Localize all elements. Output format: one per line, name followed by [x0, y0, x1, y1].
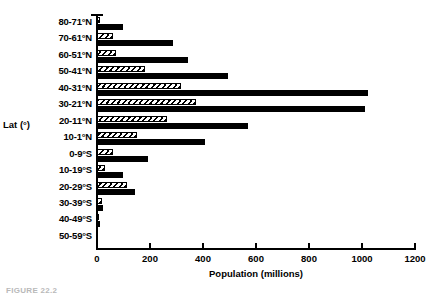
bar-group: [97, 164, 415, 181]
bar-solid: [97, 205, 103, 211]
bar-hatched: [97, 214, 99, 220]
bar-solid: [97, 24, 123, 30]
y-axis-tick-label: 50-59°S: [0, 231, 92, 241]
bar-group: [97, 148, 415, 165]
bar-hatched: [97, 83, 181, 89]
x-axis-tick-label: 0: [67, 253, 127, 264]
bar-hatched: [97, 33, 113, 39]
y-axis-tick-label: 40-49°S: [0, 214, 92, 224]
y-axis-tick-label: 10-19°S: [0, 165, 92, 175]
figure-container: Lat (°) Population (millions) FIGURE 22.…: [0, 0, 436, 297]
bar-group: [97, 131, 415, 148]
x-axis-tick-label: 400: [173, 253, 233, 264]
figure-caption: FIGURE 22.2: [6, 286, 57, 295]
y-axis-tick-label: 30-21°N: [0, 99, 92, 109]
bar-group: [97, 82, 415, 99]
bar-solid: [97, 73, 228, 79]
bar-solid: [97, 172, 123, 178]
x-axis-tick: [202, 243, 204, 250]
bar-solid: [97, 221, 100, 227]
bar-solid: [97, 156, 148, 162]
bar-group: [97, 181, 415, 198]
bar-group: [97, 49, 415, 66]
bar-hatched: [97, 149, 113, 155]
y-axis-tick-label: 80-71°N: [0, 17, 92, 27]
bar-solid: [97, 106, 365, 112]
bar-hatched: [97, 165, 105, 171]
y-axis-tick-label: 50-41°N: [0, 66, 92, 76]
x-axis-tick-label: 200: [120, 253, 180, 264]
bar-hatched: [97, 66, 145, 72]
bar-solid: [97, 123, 248, 129]
bar-solid: [97, 139, 205, 145]
bar-solid: [97, 90, 368, 96]
bar-solid: [97, 40, 173, 46]
x-axis-tick-label: 1200: [385, 253, 436, 264]
bar-hatched: [97, 182, 127, 188]
y-axis-tick-label: 30-39°S: [0, 198, 92, 208]
y-axis-tick-label: 20-11°N: [0, 116, 92, 126]
x-axis-tick-label: 800: [279, 253, 339, 264]
y-axis-tick-label: 70-61°N: [0, 33, 92, 43]
x-axis-tick: [361, 243, 363, 250]
bar-solid: [97, 57, 188, 63]
bar-group: [97, 16, 415, 33]
bar-group: [97, 65, 415, 82]
y-axis-tick-label: 20-29°S: [0, 182, 92, 192]
x-axis-tick: [149, 243, 151, 250]
bar-hatched: [97, 132, 137, 138]
bar-hatched: [97, 99, 196, 105]
y-axis-tick-label: 10-1°N: [0, 132, 92, 142]
bar-solid: [97, 189, 135, 195]
y-axis-tick-label: 0-9°S: [0, 149, 92, 159]
bar-group: [97, 115, 415, 132]
x-axis-tick: [255, 243, 257, 250]
x-axis-tick: [308, 243, 310, 250]
bar-hatched: [97, 198, 102, 204]
bar-group: [97, 197, 415, 214]
bar-hatched: [97, 17, 100, 23]
bar-group: [97, 32, 415, 49]
plot-area: [97, 14, 415, 246]
bar-group: [97, 213, 415, 230]
x-axis-tick: [414, 243, 416, 250]
y-axis-tick-label: 40-31°N: [0, 83, 92, 93]
bar-group: [97, 98, 415, 115]
x-axis-title: Population (millions): [97, 268, 415, 279]
bar-hatched: [97, 50, 116, 56]
y-axis-tick-label: 60-51°N: [0, 50, 92, 60]
x-axis-tick-label: 600: [226, 253, 286, 264]
bar-hatched: [97, 116, 167, 122]
x-axis-tick-label: 1000: [332, 253, 392, 264]
